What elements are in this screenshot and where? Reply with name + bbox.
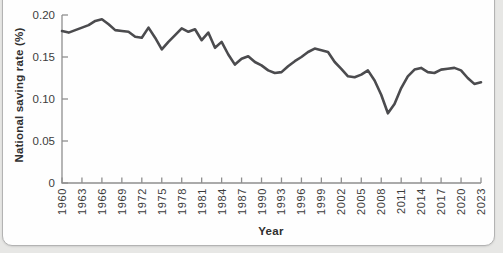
y-tick-label: 0.10 [33,93,55,105]
x-tick-label: 1981 [196,188,208,215]
saving-rate-line-chart: 00.050.100.150.2019601963196619691972197… [0,0,503,253]
x-tick-label: 2011 [395,188,407,214]
x-tick-label: 2014 [415,188,427,215]
x-tick-label: 2020 [455,188,467,215]
y-tick-label: 0 [49,177,55,189]
x-tick-label: 2005 [355,188,367,215]
x-axis-title: Year [258,225,284,237]
x-tick-label: 2023 [475,188,487,215]
x-tick-label: 1990 [256,188,268,215]
axis-lines [62,15,481,183]
x-tick-label: 1984 [216,188,228,215]
x-tick-label: 1969 [116,188,128,215]
y-tick-label: 0.05 [33,135,55,147]
x-tick-label: 1966 [96,188,108,215]
x-tick-label: 1993 [275,188,287,215]
x-tick-label: 1999 [315,188,327,215]
x-tick-label: 2002 [335,188,347,215]
x-tick-label: 2008 [375,188,387,215]
x-tick-label: 1972 [136,188,148,215]
x-tick-label: 1963 [76,188,88,215]
x-tick-label: 1996 [295,188,307,215]
x-tick-label: 1978 [176,188,188,215]
chart-area: National saving rate (%) 00.050.100.150.… [0,0,503,253]
y-tick-label: 0.15 [33,51,55,63]
x-tick-label: 2017 [435,188,447,215]
saving-rate-series-line [62,19,481,113]
x-tick-label: 1960 [56,188,68,215]
y-axis-title: National saving rate (%) [13,27,25,162]
y-tick-label: 0.20 [33,9,55,21]
x-tick-label: 1987 [236,188,248,215]
x-tick-label: 1975 [156,188,168,215]
